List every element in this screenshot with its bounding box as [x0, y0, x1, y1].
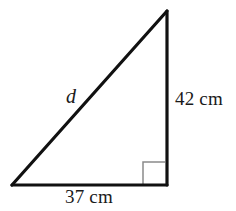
hypotenuse-label: d [66, 86, 76, 106]
vertical-leg-label: 42 cm [175, 89, 223, 108]
base-leg-label: 37 cm [65, 187, 113, 206]
figure-canvas: d 42 cm 37 cm [0, 0, 236, 211]
